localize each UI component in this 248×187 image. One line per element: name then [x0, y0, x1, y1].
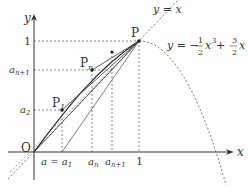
line-label-y-equals-x: y = x: [152, 3, 182, 16]
x-axis: [8, 149, 233, 155]
origin-label: O: [21, 141, 31, 155]
curve-label: y = − 1 2 x 3 + 3 2 x: [166, 36, 246, 57]
svg-text:1: 1: [198, 36, 203, 45]
y-tick-a2: a2: [20, 104, 31, 117]
label-P: P: [131, 26, 139, 40]
chord-a1-P: [62, 41, 139, 152]
chord-P1-P: [62, 41, 139, 110]
svg-text:2: 2: [232, 48, 237, 57]
label-P1: P1: [52, 96, 65, 112]
svg-text:x: x: [239, 39, 246, 52]
svg-text:y = −: y = −: [166, 39, 199, 52]
x-tick-an: an: [88, 156, 99, 169]
y-tick-1: 1: [24, 35, 31, 48]
svg-text:x: x: [205, 39, 212, 52]
x-tick-1: 1: [136, 155, 143, 168]
y-tick-an1: an+1: [9, 64, 30, 77]
y-axis: [31, 14, 37, 180]
x-tick-a1: a = a1: [41, 156, 72, 169]
svg-text:+: +: [216, 39, 225, 52]
x-tick-an1: an+1: [105, 156, 126, 169]
cubic-curve-dashed: [139, 41, 226, 185]
label-Pn: Pn: [80, 56, 93, 72]
svg-text:3: 3: [232, 36, 237, 45]
x-axis-label: x: [237, 145, 244, 159]
sequence-diagram: y x O 1 an+1 a2 a = a1 an an+1 1 P P1 Pn…: [0, 0, 248, 187]
point-Pn1: [110, 50, 113, 53]
y-axis-label: y: [23, 11, 31, 25]
svg-text:2: 2: [198, 48, 203, 57]
